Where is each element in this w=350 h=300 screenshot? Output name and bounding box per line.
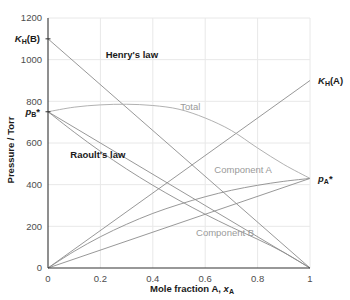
y-tick-label: 1200 (21, 12, 42, 23)
y-axis-title: Pressure / Torr (5, 116, 16, 183)
chart-canvas: 02004006008001000120000.20.40.60.81 Henr… (0, 0, 350, 300)
axis-marker-kh-a: KH(A) (318, 75, 343, 87)
annotation-raoults-law: Raoult's law (70, 149, 126, 160)
annotation-henrys-law: Henry's law (106, 49, 159, 60)
pressure-composition-chart: 02004006008001000120000.20.40.60.81 Henr… (0, 0, 350, 300)
y-tick-label: 400 (26, 179, 42, 190)
y-tick-label: 0 (37, 262, 42, 273)
x-axis-title: Mole fraction A, xA (150, 283, 234, 295)
annotation-component-a: Component A (214, 164, 272, 175)
axis-marker-kh-b: KH(B) (15, 33, 40, 45)
x-tick-label: 0.8 (251, 273, 264, 284)
y-tick-label: 1000 (21, 54, 42, 65)
annotation-component-b: Component B (196, 227, 254, 238)
x-tick-label: 0 (45, 273, 50, 284)
x-tick-label: 1 (307, 273, 312, 284)
y-tick-label: 200 (26, 221, 42, 232)
x-tick-label: 0.2 (94, 273, 107, 284)
y-tick-label: 800 (26, 96, 42, 107)
y-tick-label: 600 (26, 137, 42, 148)
annotation-total: Total (180, 101, 200, 112)
